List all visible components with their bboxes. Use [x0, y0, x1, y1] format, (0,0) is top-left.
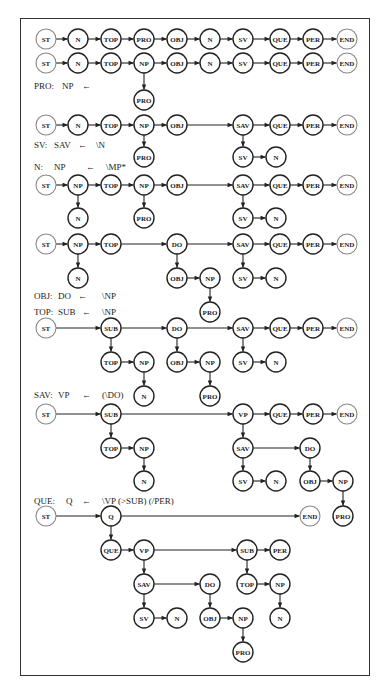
node-label: PRO [203, 309, 218, 317]
node-label: NP [139, 60, 149, 68]
node-obj: OBJ [167, 352, 187, 372]
node-n: N [266, 352, 286, 372]
node-top: TOP [101, 53, 121, 73]
node-np: NP [134, 175, 154, 195]
node-n: N [68, 208, 88, 228]
left-arrow-icon: ← [78, 141, 87, 150]
node-label: N [75, 215, 80, 223]
node-label: NP [275, 581, 285, 589]
node-label: PRO [137, 154, 152, 162]
node-pro: PRO [134, 29, 154, 49]
node-label: N [75, 122, 80, 130]
rule-token: OBJ: [34, 292, 53, 301]
node-st: ST [36, 506, 56, 526]
node-label: PRO [137, 215, 152, 223]
node-label: N [75, 275, 80, 283]
node-np: NP [134, 352, 154, 372]
node-sv: SV [233, 268, 253, 288]
rule-token: SUB [58, 308, 76, 317]
node-end: END [300, 506, 320, 526]
node-top: TOP [101, 175, 121, 195]
node-label: NP [139, 182, 149, 190]
node-np: NP [68, 234, 88, 254]
node-np: NP [134, 53, 154, 73]
node-label: SV [239, 36, 248, 44]
node-label: OBJ [303, 478, 317, 486]
node-que: QUE [270, 29, 290, 49]
node-label: PRO [236, 649, 251, 657]
rule-token: QUE: [34, 497, 55, 506]
node-label: SUB [104, 325, 118, 333]
node-end: END [337, 318, 357, 338]
node-label: N [207, 36, 212, 44]
rule-token: SAV: [34, 391, 53, 400]
node-label: PRO [137, 97, 152, 105]
node-n: N [68, 53, 88, 73]
node-label: SAV [236, 241, 249, 249]
node-label: N [273, 478, 278, 486]
rule-token: PRO: [34, 82, 54, 91]
node-st: ST [36, 175, 56, 195]
rule-token: \NP [102, 292, 116, 301]
node-obj: OBJ [167, 268, 187, 288]
node-sv: SV [233, 352, 253, 372]
node-label: N [141, 393, 146, 401]
node-label: OBJ [170, 60, 184, 68]
node-obj: OBJ [167, 53, 187, 73]
rule-token: \VP (>SUB) (/PER) [102, 497, 174, 506]
node-label: END [340, 325, 355, 333]
node-label: TOP [104, 241, 119, 249]
node-top: TOP [101, 438, 121, 458]
node-label: QUE [272, 36, 288, 44]
node-sav: SAV [134, 574, 154, 594]
node-label: SV [239, 275, 248, 283]
node-label: ST [42, 60, 51, 68]
node-do: DO [300, 438, 320, 458]
node-label: QUE [272, 60, 288, 68]
node-sv: SV [233, 53, 253, 73]
node-np: NP [134, 438, 154, 458]
node-do: DO [200, 574, 220, 594]
node-label: ST [42, 325, 51, 333]
node-pro: PRO [134, 90, 154, 110]
node-per: PER [303, 115, 323, 135]
node-per: PER [303, 29, 323, 49]
node-label: PRO [203, 393, 218, 401]
node-label: END [340, 182, 355, 190]
node-sub: SUB [237, 540, 257, 560]
node-vp: VP [134, 540, 154, 560]
node-pro: PRO [333, 506, 353, 526]
node-label: PER [306, 182, 321, 190]
node-label: N [75, 36, 80, 44]
node-label: NP [238, 615, 248, 623]
node-label: SV [239, 215, 248, 223]
transformation-diagram: STNTOPPROOBJNSVQUEPERENDSTNTOPNPOBJNSVQU… [0, 0, 388, 694]
node-label: TOP [104, 359, 119, 367]
node-n: N [68, 29, 88, 49]
node-sv: SV [233, 471, 253, 491]
node-label: OBJ [170, 182, 184, 190]
left-arrow-icon: ← [82, 82, 91, 91]
node-label: QUE [272, 182, 288, 190]
node-end: END [337, 175, 357, 195]
node-end: END [337, 404, 357, 424]
node-do: DO [167, 318, 187, 338]
node-np: NP [200, 268, 220, 288]
node-end: END [337, 234, 357, 254]
node-n: N [167, 608, 187, 628]
node-sav: SAV [233, 115, 253, 135]
node-label: ST [42, 411, 51, 419]
node-pro: PRO [233, 642, 253, 662]
node-label: PRO [336, 513, 351, 521]
node-label: VP [238, 411, 248, 419]
node-label: NP [139, 122, 149, 130]
node-sav: SAV [233, 438, 253, 458]
node-per: PER [303, 234, 323, 254]
node-label: NP [139, 445, 149, 453]
node-que: QUE [270, 404, 290, 424]
node-label: PER [273, 547, 288, 555]
node-label: QUE [272, 325, 288, 333]
node-que: QUE [270, 175, 290, 195]
left-arrow-icon: ← [82, 497, 91, 506]
node-top: TOP [101, 234, 121, 254]
